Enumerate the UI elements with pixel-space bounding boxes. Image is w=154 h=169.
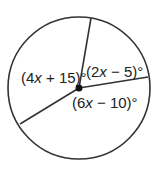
angle-label-bottom: (6x − 10)° — [72, 94, 138, 111]
circle-diagram: (4x + 15)° (2x − 5)° (6x − 10)° — [0, 0, 154, 169]
radius-left — [20, 88, 79, 124]
angle-label-left: (4x + 15)° — [21, 69, 87, 86]
angle-label-top-right: (2x − 5)° — [86, 63, 143, 80]
